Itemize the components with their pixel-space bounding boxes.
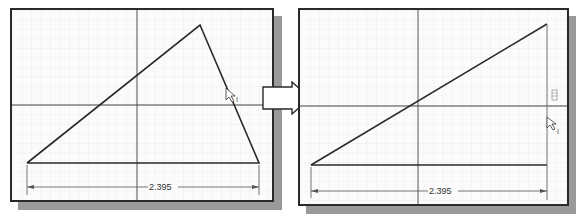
dimension-value[interactable]: 2.395 xyxy=(149,182,172,192)
grid xyxy=(300,10,569,206)
dimension-value[interactable]: 2.395 xyxy=(429,186,452,196)
cursor-label: I xyxy=(236,96,238,103)
sketch-canvas: 2.395 I xyxy=(298,8,569,206)
sketch-canvas: 2.395 I xyxy=(10,8,274,202)
cursor-label: I xyxy=(557,128,559,135)
